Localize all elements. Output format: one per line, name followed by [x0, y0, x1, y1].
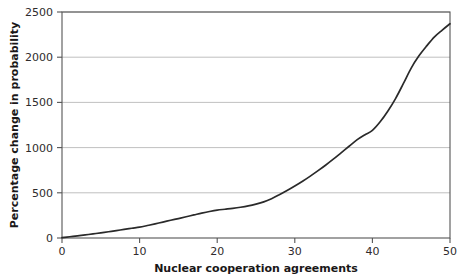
x-tick-label-10: 10 — [133, 245, 147, 258]
y-tick-label-1000: 1000 — [25, 142, 53, 155]
x-tick-label-20: 20 — [210, 245, 224, 258]
line-chart: 01020304050 05001000150020002500 Nuclear… — [0, 0, 463, 278]
x-axis-title: Nuclear cooperation agreements — [154, 262, 358, 275]
y-tick-label-0: 0 — [46, 232, 53, 245]
y-axis-title: Percentage change in probability — [8, 22, 21, 229]
x-tick-label-0: 0 — [59, 245, 66, 258]
x-tick-label-40: 40 — [365, 245, 379, 258]
chart-figure: 01020304050 05001000150020002500 Nuclear… — [0, 0, 463, 278]
x-tick-label-50: 50 — [443, 245, 457, 258]
y-tick-label-2000: 2000 — [25, 51, 53, 64]
y-tick-label-1500: 1500 — [25, 96, 53, 109]
x-tick-label-30: 30 — [288, 245, 302, 258]
y-tick-label-500: 500 — [32, 187, 53, 200]
y-tick-label-2500: 2500 — [25, 6, 53, 19]
